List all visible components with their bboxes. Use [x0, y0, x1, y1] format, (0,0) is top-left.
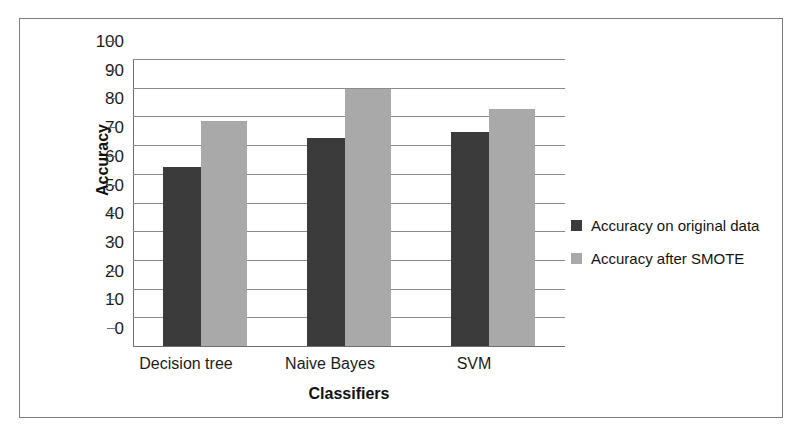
- bar: [451, 132, 489, 346]
- bar-group: [133, 59, 277, 346]
- x-axis-category-label: Decision tree: [114, 355, 258, 373]
- y-axis-tick-label-0: 0: [84, 320, 124, 337]
- y-axis-tick-50: [107, 185, 115, 186]
- y-axis-tick-label-50: 50: [84, 177, 124, 194]
- plot-area: [133, 59, 565, 346]
- legend-item[interactable]: Accuracy after SMOTE: [571, 242, 791, 275]
- bar: [163, 167, 201, 346]
- y-axis-tick-10: [107, 299, 115, 300]
- y-axis-tick-label-80: 80: [84, 90, 124, 107]
- legend-item[interactable]: Accuracy on original data: [571, 209, 791, 242]
- y-axis-tick-label-10: 10: [84, 291, 124, 308]
- y-axis-tick-90: [107, 70, 115, 71]
- legend-label: Accuracy on original data: [591, 217, 759, 234]
- y-axis-tick-0: [107, 328, 115, 329]
- legend-label: Accuracy after SMOTE: [591, 250, 744, 267]
- y-axis-tick-80: [107, 98, 115, 99]
- y-axis-tick-label-40: 40: [84, 205, 124, 222]
- y-axis-tick-40: [107, 213, 115, 214]
- y-axis-tick-label-100: 100: [84, 33, 124, 50]
- y-axis-tick-label-70: 70: [84, 119, 124, 136]
- bar: [345, 89, 391, 346]
- x-axis-category-label: Naive Bayes: [258, 355, 402, 373]
- bar-group: [421, 59, 565, 346]
- y-axis-tick-60: [107, 156, 115, 157]
- figure-frame: Accuracy 1009080706050403020100 Decision…: [19, 18, 783, 418]
- x-axis-category-label: SVM: [402, 355, 546, 373]
- legend-swatch-icon: [571, 220, 582, 231]
- gridline-0: [133, 346, 565, 347]
- y-axis-tick-20: [107, 271, 115, 272]
- chart-legend: Accuracy on original dataAccuracy after …: [571, 209, 791, 275]
- y-axis-tick-label-20: 20: [84, 263, 124, 280]
- y-axis-tick-100: [107, 41, 115, 42]
- bar: [201, 121, 247, 346]
- y-axis-tick-70: [107, 127, 115, 128]
- legend-swatch-icon: [571, 253, 582, 264]
- bar: [489, 109, 535, 346]
- y-axis-tick-label-30: 30: [84, 234, 124, 251]
- x-axis-title: Classifiers: [133, 385, 565, 403]
- bar-group: [277, 59, 421, 346]
- y-axis-tick-30: [107, 242, 115, 243]
- y-axis-tick-label-60: 60: [84, 148, 124, 165]
- bar: [307, 138, 345, 346]
- y-axis-tick-label-90: 90: [84, 62, 124, 79]
